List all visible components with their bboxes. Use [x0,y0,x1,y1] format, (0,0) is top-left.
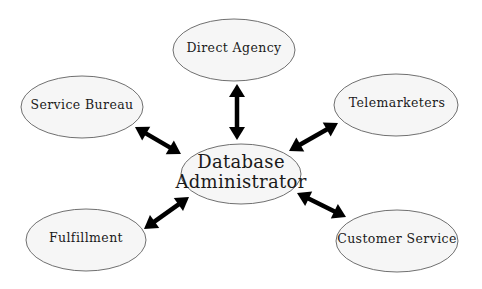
edge-dba-fulfillment [144,197,189,229]
edge-dba-direct-agency [229,84,245,140]
node-database-administrator-label-line1: Database [197,151,285,172]
arrow-shaft [144,133,171,149]
arrow-shaft [299,128,329,145]
edge-dba-customer-service [297,192,346,219]
node-database-administrator: Database Administrator [174,144,306,204]
node-service-bureau: Service Bureau [21,76,143,138]
node-customer-service: Customer Service [336,210,458,272]
node-direct-agency-label: Direct Agency [186,40,282,55]
node-customer-service-label: Customer Service [337,231,457,246]
node-database-administrator-label-line2: Administrator [174,171,306,192]
arrow-shaft [307,198,336,212]
arrowhead-icon [229,84,245,97]
arrowhead-icon [229,127,245,140]
node-telemarketers: Telemarketers [334,74,458,136]
node-fulfillment-label: Fulfillment [49,230,123,245]
arrow-shaft [153,203,180,222]
edge-dba-telemarketers [289,123,338,152]
node-telemarketers-label: Telemarketers [349,95,445,110]
edge-dba-service-bureau [135,127,181,155]
node-direct-agency: Direct Agency [173,19,295,81]
node-service-bureau-label: Service Bureau [30,97,133,112]
node-fulfillment: Fulfillment [26,209,146,271]
diagram-canvas: Direct Agency Service Bureau Telemarkete… [0,0,482,289]
